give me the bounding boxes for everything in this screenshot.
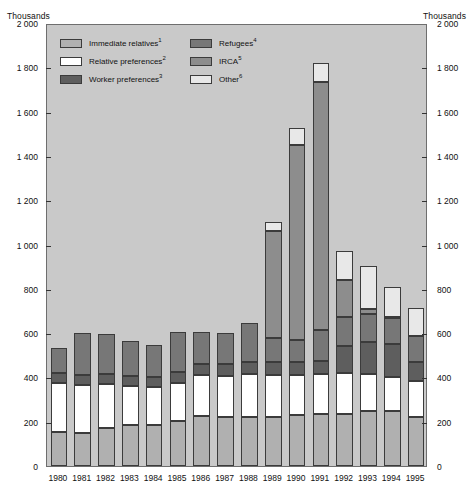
legend-swatch-worker_preferences (60, 75, 82, 84)
bar-segment-other (336, 251, 353, 280)
bar-segment-relative-preferences (313, 374, 330, 414)
y-tick-label-right: 1 400 (437, 152, 471, 162)
bar-segment-refugees (74, 333, 91, 375)
legend-label-relative_preferences: Relative preferences2 (89, 57, 166, 66)
bar-segment-other (384, 287, 401, 317)
bar-segment-irca (336, 280, 353, 317)
bar-segment-worker-preferences (122, 376, 139, 386)
bar-segment-other (289, 128, 306, 145)
y-tick-label-left: 1 400 (4, 152, 38, 162)
bar-segment-relative-preferences (265, 375, 282, 417)
legend-item-refugees[interactable]: Refugees4 (190, 39, 257, 48)
bar-segment-immediate-relatives (408, 417, 425, 466)
bar-segment-refugees (289, 340, 306, 362)
bar-segment-refugees (98, 334, 115, 374)
legend-footnote-marker: 5 (238, 55, 241, 61)
y-tick-label-left: 800 (4, 285, 38, 295)
y-tick-label-left: 400 (4, 373, 38, 383)
bar-segment-immediate-relatives (122, 425, 139, 466)
bar-segment-immediate-relatives (289, 415, 306, 466)
chart-page: Thousands Thousands 2 0001 8001 6001 400… (0, 0, 472, 500)
y-tick-mark-left (46, 201, 51, 202)
bar-segment-worker-preferences (98, 374, 115, 384)
legend-footnote-marker: 6 (239, 73, 242, 79)
y-tick-label-left: 1 200 (4, 196, 38, 206)
y-tick-mark-right (422, 68, 427, 69)
bar-segment-other (360, 266, 377, 309)
bar-segment-relative-preferences (122, 386, 139, 425)
bar-segment-irca (360, 309, 377, 315)
bar-segment-irca (265, 231, 282, 337)
bar-1993[interactable] (360, 23, 377, 466)
bar-segment-worker-preferences (336, 346, 353, 373)
legend-item-other[interactable]: Other6 (190, 75, 242, 84)
bar-segment-relative-preferences (51, 383, 68, 432)
legend-swatch-other (190, 75, 212, 84)
y-tick-label-right: 400 (437, 373, 471, 383)
bar-segment-relative-preferences (408, 381, 425, 418)
bar-segment-immediate-relatives (241, 417, 258, 466)
y-tick-label-right: 800 (437, 285, 471, 295)
bar-segment-immediate-relatives (98, 428, 115, 466)
legend-swatch-irca (190, 57, 212, 66)
legend-item-irca[interactable]: IRCA5 (190, 57, 241, 66)
bar-segment-other (265, 222, 282, 231)
legend-item-worker_preferences[interactable]: Worker preferences3 (60, 75, 162, 84)
bar-segment-refugees (193, 332, 210, 364)
bar-1990[interactable] (289, 23, 306, 466)
bar-segment-other (313, 63, 330, 82)
y-tick-label-right: 200 (437, 418, 471, 428)
bar-segment-other (408, 308, 425, 337)
y-tick-mark-left (46, 423, 51, 424)
legend-swatch-refugees (190, 39, 212, 48)
bar-segment-immediate-relatives (313, 414, 330, 466)
bar-segment-worker-preferences (217, 364, 234, 376)
y-tick-mark-right (422, 423, 427, 424)
bar-segment-refugees (217, 333, 234, 364)
legend-swatch-immediate_relatives (60, 39, 82, 48)
y-tick-mark-right (422, 157, 427, 158)
bar-segment-refugees (170, 332, 187, 372)
bar-segment-relative-preferences (98, 384, 115, 428)
y-tick-mark-left (46, 68, 51, 69)
legend-label-other: Other6 (219, 75, 242, 84)
bar-1995[interactable] (408, 23, 425, 466)
bar-segment-relative-preferences (384, 377, 401, 410)
bar-segment-relative-preferences (146, 387, 163, 425)
bar-1994[interactable] (384, 23, 401, 466)
bar-segment-worker-preferences (241, 362, 258, 374)
legend-label-worker_preferences: Worker preferences3 (89, 75, 162, 84)
y-tick-mark-right (422, 290, 427, 291)
y-tick-mark-left (46, 290, 51, 291)
bar-segment-refugees (265, 338, 282, 362)
bar-segment-immediate-relatives (360, 411, 377, 466)
bar-segment-worker-preferences (384, 344, 401, 377)
bar-segment-relative-preferences (170, 383, 187, 421)
bar-segment-relative-preferences (217, 376, 234, 417)
legend-footnote-marker: 1 (158, 37, 161, 43)
y-tick-mark-left (46, 113, 51, 114)
legend-item-relative_preferences[interactable]: Relative preferences2 (60, 57, 166, 66)
bar-segment-immediate-relatives (217, 417, 234, 466)
bar-1991[interactable] (313, 23, 330, 466)
bar-segment-relative-preferences (360, 374, 377, 411)
y-tick-label-right: 1 200 (437, 196, 471, 206)
y-tick-mark-right (422, 201, 427, 202)
y-tick-label-left: 1 000 (4, 241, 38, 251)
bar-segment-refugees (336, 317, 353, 347)
bar-segment-refugees (122, 341, 139, 376)
bar-segment-worker-preferences (360, 342, 377, 374)
legend-item-immediate_relatives[interactable]: Immediate relatives1 (60, 39, 162, 48)
bar-segment-refugees (360, 314, 377, 342)
legend-swatch-relative_preferences (60, 57, 82, 66)
y-tick-mark-left (46, 334, 51, 335)
bar-segment-refugees (408, 336, 425, 361)
y-tick-label-right: 1 800 (437, 63, 471, 73)
bar-segment-worker-preferences (146, 377, 163, 387)
legend-footnote-marker: 4 (253, 37, 256, 43)
bar-segment-worker-preferences (289, 362, 306, 375)
bar-segment-irca (313, 82, 330, 330)
bar-segment-worker-preferences (51, 373, 68, 383)
y-tick-mark-right (422, 334, 427, 335)
bar-1992[interactable] (336, 23, 353, 466)
